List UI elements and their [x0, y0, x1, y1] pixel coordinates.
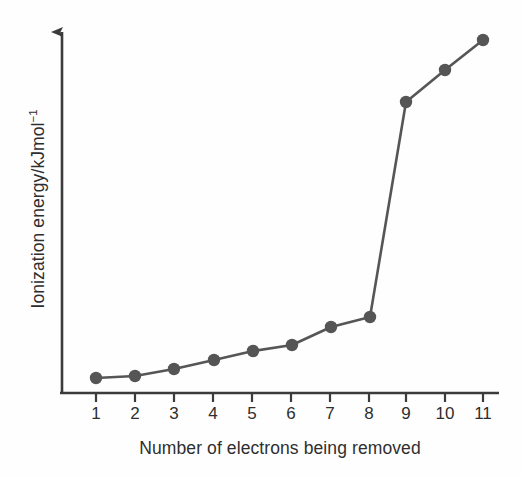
x-tick-label-8: 8	[364, 404, 373, 424]
data-point-7	[325, 321, 337, 333]
ionization-energy-chart: Ionization energy/kJmol−1 1 2 3 4 5 6 7 …	[0, 0, 522, 477]
data-point-5	[247, 345, 259, 357]
y-axis-title: Ionization energy/kJmol−1	[27, 79, 49, 339]
x-axis-ticks	[96, 393, 483, 402]
x-tick-label-2: 2	[130, 404, 139, 424]
x-tick-label-7: 7	[325, 404, 334, 424]
data-point-9	[400, 96, 412, 108]
data-point-2	[129, 370, 141, 382]
x-tick-label-3: 3	[169, 404, 178, 424]
data-point-6	[286, 339, 298, 351]
x-tick-label-4: 4	[208, 404, 217, 424]
x-tick-label-11: 11	[474, 404, 492, 424]
data-point-10	[439, 64, 451, 76]
y-axis-title-text: Ionization energy/kJmol	[28, 122, 48, 308]
y-axis-title-superscript: −1	[27, 109, 39, 122]
x-tick-label-5: 5	[247, 404, 256, 424]
x-tick-label-1: 1	[91, 404, 100, 424]
x-tick-label-9: 9	[401, 404, 410, 424]
data-line	[96, 40, 483, 378]
data-point-11	[477, 34, 489, 46]
data-point-3	[168, 363, 180, 375]
x-tick-label-6: 6	[286, 404, 295, 424]
x-tick-label-10: 10	[436, 404, 455, 424]
data-point-4	[208, 354, 220, 366]
x-axis-title: Number of electrons being removed	[62, 438, 498, 459]
data-point-1	[90, 372, 102, 384]
data-markers	[90, 34, 489, 384]
data-point-8	[364, 311, 376, 323]
